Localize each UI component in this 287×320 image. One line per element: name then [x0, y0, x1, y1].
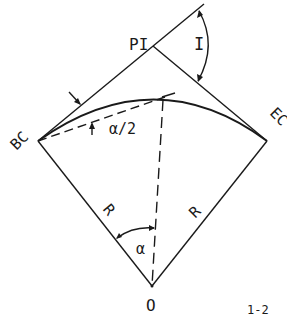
label-i: I [194, 34, 204, 54]
circular-curve-arc [38, 100, 267, 142]
label-r-left: R [99, 201, 119, 220]
chord-end-tick [162, 93, 175, 97]
arrowhead-alpha-left [116, 233, 122, 239]
center-point-o [151, 285, 154, 288]
arrowhead-i-bottom [197, 74, 203, 82]
label-pi: PI [129, 35, 148, 54]
alpha-angle-arc [117, 228, 154, 238]
label-ec: EC [266, 104, 287, 130]
arrowhead-alpha-half [89, 122, 95, 129]
forward-tangent-line [153, 46, 267, 141]
arrowhead-alpha-right [149, 225, 155, 231]
radius-right-line [152, 141, 267, 286]
center-dashed-line [152, 100, 163, 286]
label-alpha-half: α/2 [109, 120, 136, 138]
label-bc: BC [7, 128, 33, 154]
radius-left-line [38, 141, 152, 286]
label-alpha: α [136, 240, 145, 258]
figure-number: 1-2 [247, 303, 269, 317]
label-r-right: R [185, 202, 205, 222]
label-o: O [146, 296, 156, 315]
chord-dashed-line [38, 97, 165, 141]
curve-diagram: PI I BC EC α/2 R R α O 1-2 [0, 0, 287, 320]
